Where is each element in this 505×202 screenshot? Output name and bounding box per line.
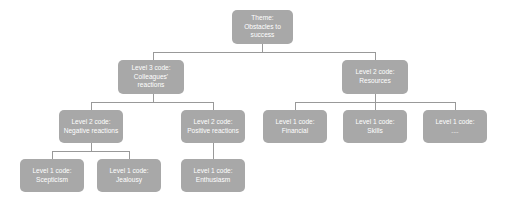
- node-other-resource-name-1: ....: [451, 127, 458, 136]
- node-scepticism[interactable]: Level 1 code: Scepticism: [20, 159, 84, 192]
- node-enthusiasm-level: Level 1 code:: [193, 167, 232, 176]
- node-jealousy-name-1: Jealousy: [116, 176, 142, 185]
- node-skills-level: Level 1 code:: [355, 118, 394, 127]
- node-enthusiasm-name-1: Enthusiasm: [196, 176, 230, 185]
- node-colleagues-level: Level 3 code:: [131, 64, 170, 73]
- node-positive-reactions[interactable]: Level 2 code: Positive reactions: [181, 110, 245, 143]
- node-theme[interactable]: Theme: Obstacles to success: [232, 10, 293, 44]
- node-financial[interactable]: Level 1 code: Financial: [263, 110, 327, 143]
- node-colleagues-reactions[interactable]: Level 3 code: Colleagues' reactions: [118, 60, 184, 94]
- node-resources-name-1: Resources: [359, 77, 391, 86]
- node-positive-level: Level 2 code:: [193, 118, 232, 127]
- node-financial-name-1: Financial: [282, 127, 308, 136]
- node-colleagues-name-2: reactions: [138, 81, 165, 90]
- node-theme-name-2: success: [251, 31, 275, 40]
- node-negative-level: Level 2 code:: [71, 118, 110, 127]
- node-enthusiasm[interactable]: Level 1 code: Enthusiasm: [181, 159, 245, 192]
- node-theme-level: Theme:: [251, 14, 273, 23]
- node-resources[interactable]: Level 2 code: Resources: [342, 60, 408, 94]
- node-jealousy-level: Level 1 code:: [109, 167, 148, 176]
- node-scepticism-name-1: Scepticism: [36, 176, 68, 185]
- node-resources-level: Level 2 code:: [355, 68, 394, 77]
- node-positive-name-1: Positive reactions: [187, 127, 239, 136]
- node-scepticism-level: Level 1 code:: [32, 167, 71, 176]
- node-jealousy[interactable]: Level 1 code: Jealousy: [97, 159, 161, 192]
- node-other-resource-level: Level 1 code:: [435, 118, 474, 127]
- thematic-analysis-diagram: Theme: Obstacles to success Level 3 code…: [0, 0, 505, 202]
- node-other-resource[interactable]: Level 1 code: ....: [423, 110, 487, 143]
- node-financial-level: Level 1 code:: [275, 118, 314, 127]
- node-skills-name-1: Skills: [367, 127, 382, 136]
- node-negative-name-1: Negative reactions: [64, 127, 119, 136]
- node-theme-name-1: Obstacles to: [244, 23, 281, 32]
- node-colleagues-name-1: Colleagues': [134, 73, 168, 82]
- node-skills[interactable]: Level 1 code: Skills: [343, 110, 407, 143]
- node-negative-reactions[interactable]: Level 2 code: Negative reactions: [59, 110, 123, 143]
